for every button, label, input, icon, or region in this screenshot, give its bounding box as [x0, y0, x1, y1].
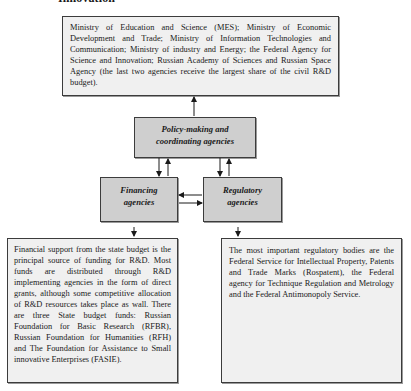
connector-arrows	[0, 0, 411, 391]
